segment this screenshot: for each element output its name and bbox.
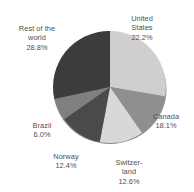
- pie-label-switzerland-value: 12.6%: [100, 177, 158, 187]
- pie-label-switzerland-name: Switzer- land: [115, 158, 142, 177]
- pie-label-canada: Canada 18.1%: [140, 102, 192, 140]
- pie-label-brazil-value: 6.0%: [18, 130, 66, 140]
- pie-label-rest-of-world-name: Rest of the world: [19, 24, 55, 43]
- pie-label-united-states-name: United States: [131, 14, 153, 33]
- pie-label-canada-name: Canada: [153, 112, 179, 121]
- pie-label-brazil: Brazil 6.0%: [18, 111, 66, 149]
- pie-label-rest-of-world: Rest of the world 28.8%: [2, 14, 72, 62]
- pie-label-united-states: United States 22.2%: [112, 4, 172, 52]
- pie-label-norway-name: Norway: [53, 152, 78, 161]
- pie-chart-figure: United States 22.2% Canada 18.1% Switzer…: [0, 0, 194, 192]
- pie-label-switzerland: Switzer- land 12.6%: [100, 148, 158, 192]
- pie-label-united-states-value: 22.2%: [112, 33, 172, 43]
- pie-label-rest-of-world-value: 28.8%: [2, 43, 72, 53]
- pie-label-canada-value: 18.1%: [140, 121, 192, 131]
- pie-label-norway-value: 12.4%: [38, 161, 94, 171]
- pie-label-brazil-name: Brazil: [33, 121, 52, 130]
